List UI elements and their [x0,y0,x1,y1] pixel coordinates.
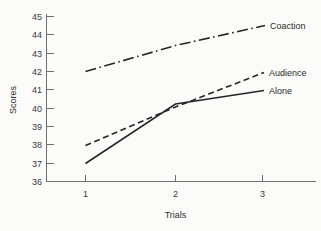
y-tick-label-39: 39 [32,122,42,132]
y-tick-label-38: 38 [32,140,42,150]
series-line-audience [86,73,265,146]
line-chart-canvas: 45 44 43 42 41 40 39 38 37 36 1 2 3 Tria… [0,0,321,231]
x-axis-title: Trials [165,210,187,220]
y-tick-label-36: 36 [32,177,42,187]
series-line-coaction [86,26,266,72]
series-label-alone: Alone [269,86,292,96]
series-line-alone [86,91,265,164]
y-axis-ticks [47,17,54,182]
series-label-coaction: Coaction [270,21,306,31]
y-tick-label-44: 44 [32,30,42,40]
chart-figure: 45 44 43 42 41 40 39 38 37 36 1 2 3 Tria… [0,0,321,231]
y-tick-label-45: 45 [32,12,42,22]
x-axis-tick-labels: 1 2 3 [83,189,265,199]
y-axis-tick-labels: 45 44 43 42 41 40 39 38 37 36 [32,12,42,187]
x-tick-label-2: 2 [173,189,178,199]
x-axis-ticks [86,175,263,182]
x-tick-label-1: 1 [83,189,88,199]
x-tick-label-3: 3 [260,189,265,199]
y-tick-label-37: 37 [32,159,42,169]
y-tick-label-42: 42 [32,67,42,77]
series-label-audience: Audience [269,68,307,78]
y-tick-label-43: 43 [32,49,42,59]
y-tick-label-40: 40 [32,104,42,114]
y-tick-label-41: 41 [32,85,42,95]
y-axis-title: Scores [8,85,18,114]
